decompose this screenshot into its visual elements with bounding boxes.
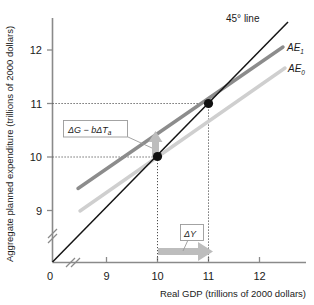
y-tick-label-10: 10 bbox=[30, 151, 42, 163]
y-tick-label-11: 11 bbox=[31, 98, 42, 110]
delta-y-annotation-text: ΔY bbox=[183, 229, 197, 239]
series-label-ae0-subscript: 0 bbox=[301, 69, 305, 76]
x-tick-label-9: 9 bbox=[103, 270, 109, 282]
series-label-ae1-subscript: 1 bbox=[300, 48, 304, 55]
shift-annotation: ΔG − bΔTa bbox=[64, 121, 153, 149]
series-label-45degree: 45° line bbox=[226, 13, 260, 24]
x-tick-label-11: 11 bbox=[203, 270, 214, 282]
series-label-ae1: AE1 bbox=[286, 42, 304, 55]
series-label-ae1-base: AE bbox=[286, 42, 301, 53]
equilibrium-dot-initial bbox=[153, 152, 162, 161]
y-tick-label-12: 12 bbox=[30, 44, 42, 56]
chart-svg: Aggregate planned expenditure (trillions… bbox=[0, 0, 314, 305]
series-line-ae0 bbox=[80, 68, 285, 211]
shift-annotation-base: ΔG − bΔT bbox=[67, 125, 109, 135]
y-tick-label-9: 9 bbox=[36, 205, 42, 217]
x-axis-title: Real GDP (trillions of 2000 dollars) bbox=[160, 288, 306, 299]
equilibrium-dot-new bbox=[204, 99, 213, 108]
aggregate-expenditure-chart: Aggregate planned expenditure (trillions… bbox=[0, 0, 314, 305]
shift-annotation-text: ΔG − bΔTa bbox=[67, 125, 112, 137]
x-tick-label-10: 10 bbox=[151, 270, 163, 282]
series-line-ae1 bbox=[78, 47, 283, 189]
x-tick-label-0: 0 bbox=[47, 270, 53, 282]
y-ticks: 12 11 10 9 bbox=[30, 44, 53, 217]
series-line-45degree bbox=[53, 22, 289, 262]
series-label-ae0: AE0 bbox=[287, 63, 305, 76]
x-tick-label-12: 12 bbox=[253, 270, 265, 282]
series-label-ae0-base: AE bbox=[287, 63, 302, 74]
y-axis-title-group: Aggregate planned expenditure (trillions… bbox=[4, 26, 15, 262]
shift-annotation-subscript: a bbox=[108, 129, 112, 136]
x-ticks: 0 9 10 11 12 bbox=[47, 257, 266, 282]
y-axis-title: Aggregate planned expenditure (trillions… bbox=[4, 26, 15, 262]
